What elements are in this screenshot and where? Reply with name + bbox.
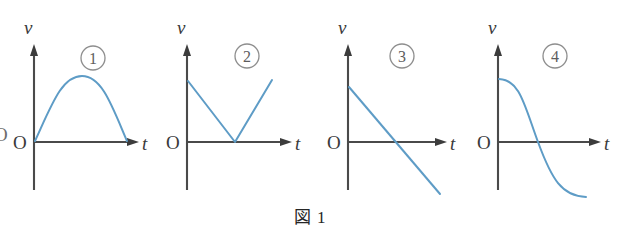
v-axis-arrowhead-2 bbox=[183, 44, 191, 56]
panel-marker-4: 4 bbox=[551, 48, 559, 65]
velocity-curve-1 bbox=[35, 76, 127, 141]
origin-label-1: O bbox=[13, 132, 27, 153]
origin-label-4: O bbox=[477, 132, 491, 153]
v-axis-label-2: v bbox=[177, 17, 186, 38]
graph-panel-4: v t O 4 bbox=[462, 0, 617, 205]
v-axis-label-1: v bbox=[24, 17, 33, 38]
graph-panel-1: v t O 1 bbox=[0, 0, 155, 205]
velocity-curve-2 bbox=[188, 80, 272, 142]
v-axis-arrowhead-4 bbox=[494, 44, 502, 56]
figure-container: O v t O 1 v t O 2 bbox=[0, 0, 620, 240]
graph-panel-3: v t O 3 bbox=[308, 0, 463, 205]
t-axis-label-3: t bbox=[450, 133, 456, 154]
v-axis-label-4: v bbox=[488, 17, 497, 38]
t-axis-arrowhead-1 bbox=[127, 138, 139, 146]
velocity-curve-3 bbox=[349, 87, 440, 194]
v-axis-arrowhead-1 bbox=[30, 44, 38, 56]
panel-marker-3: 3 bbox=[398, 48, 406, 65]
t-axis-arrowhead-3 bbox=[435, 138, 447, 146]
t-axis-label-4: t bbox=[604, 133, 610, 154]
v-axis-label-3: v bbox=[338, 17, 347, 38]
velocity-curve-4 bbox=[499, 79, 586, 197]
figure-caption: 図 1 bbox=[0, 203, 620, 228]
panel-marker-1: 1 bbox=[89, 50, 97, 67]
graph-panel-2: v t O 2 bbox=[153, 0, 308, 205]
panel-marker-2: 2 bbox=[243, 48, 251, 65]
origin-label-2: O bbox=[166, 132, 180, 153]
t-axis-arrowhead-4 bbox=[589, 138, 601, 146]
v-axis-arrowhead-3 bbox=[344, 44, 352, 56]
origin-label-3: O bbox=[327, 132, 341, 153]
t-axis-label-2: t bbox=[295, 133, 301, 154]
t-axis-label-1: t bbox=[142, 133, 148, 154]
t-axis-arrowhead-2 bbox=[280, 138, 292, 146]
